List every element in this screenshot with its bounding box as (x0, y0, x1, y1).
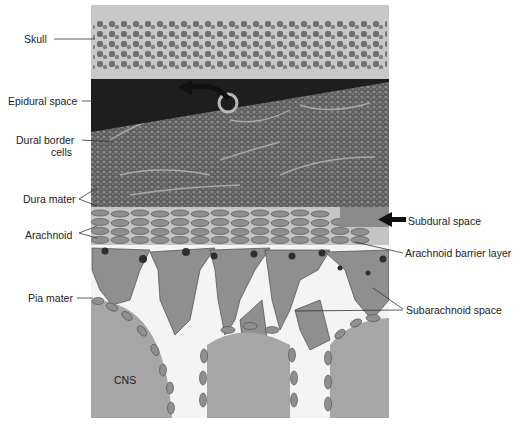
label-dural-border-cells-line1: Dural border (16, 134, 74, 146)
label-epidural-space: Epidural space (8, 95, 77, 107)
label-cns: CNS (114, 374, 136, 386)
cns-block-middle (207, 333, 290, 419)
label-subdural-space: Subdural space (408, 215, 481, 227)
label-dural-border-cells-line2: cells (51, 146, 72, 158)
label-pia-mater: Pia mater (28, 292, 73, 304)
label-arachnoid: Arachnoid (25, 229, 72, 241)
label-dura-mater: Dura mater (23, 193, 76, 205)
subdural-space-region (340, 207, 389, 227)
meninges-diagram (0, 0, 525, 426)
label-subarachnoid-space: Subarachnoid space (406, 304, 502, 316)
label-skull: Skull (24, 33, 47, 45)
label-arachnoid-barrier-layer: Arachnoid barrier layer (405, 247, 511, 259)
